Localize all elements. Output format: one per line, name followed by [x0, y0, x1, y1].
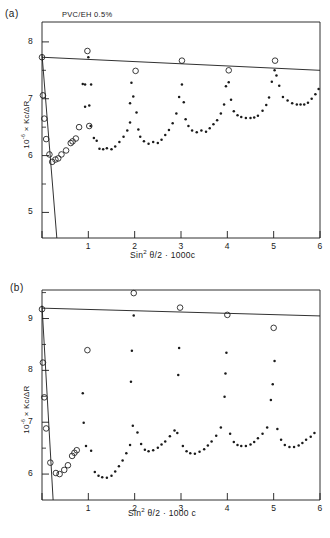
data-point-open-circle	[271, 325, 277, 331]
data-point-open-circle	[48, 460, 54, 466]
data-point-filled-dot	[227, 81, 230, 84]
data-point-filled-dot	[261, 432, 264, 435]
data-point-filled-dot	[224, 372, 227, 375]
data-point-filled-dot	[171, 122, 174, 125]
data-point-filled-dot	[175, 112, 178, 115]
data-point-filled-dot	[286, 99, 289, 102]
data-point-filled-dot	[223, 396, 226, 399]
data-point-filled-dot	[88, 104, 91, 107]
data-point-filled-dot	[210, 440, 213, 443]
data-point-filled-dot	[314, 93, 317, 96]
data-point-open-circle	[76, 124, 82, 130]
data-point-filled-dot	[130, 82, 133, 85]
data-point-open-circle	[57, 471, 63, 477]
data-point-filled-dot	[223, 103, 226, 106]
data-point-filled-dot	[183, 101, 186, 104]
panel-b-y-axis-label: 10-6 × Kc/ΔR	[22, 362, 31, 458]
data-point-filled-dot	[185, 450, 188, 453]
data-point-filled-dot	[310, 97, 313, 100]
data-point-open-circle	[177, 305, 183, 311]
data-point-filled-dot	[198, 451, 201, 454]
data-point-open-circle	[59, 152, 65, 158]
data-point-filled-dot	[98, 148, 101, 151]
data-point-open-circle	[131, 290, 137, 296]
data-point-filled-dot	[129, 102, 132, 105]
data-point-filled-dot	[187, 125, 190, 128]
data-point-filled-dot	[220, 426, 223, 429]
zero-angle-fit-line	[42, 306, 53, 500]
data-point-filled-dot	[101, 476, 104, 479]
data-point-filled-dot	[278, 84, 281, 87]
data-point-filled-dot	[273, 360, 276, 363]
data-point-filled-dot	[84, 105, 87, 108]
data-point-filled-dot	[90, 449, 93, 452]
data-point-open-circle	[43, 136, 49, 142]
data-point-filled-dot	[189, 452, 192, 455]
data-point-filled-dot	[118, 141, 121, 144]
data-point-filled-dot	[309, 435, 312, 438]
data-point-filled-dot	[140, 443, 143, 446]
data-point-filled-dot	[173, 429, 176, 432]
data-point-filled-dot	[178, 96, 181, 99]
x-tick-label: 3	[179, 241, 184, 251]
y-tick-label: 8	[28, 36, 33, 46]
data-point-filled-dot	[106, 476, 109, 479]
axes-frame	[42, 22, 320, 238]
data-point-filled-dot	[271, 80, 274, 83]
data-point-filled-dot	[160, 138, 163, 141]
data-point-filled-dot	[136, 431, 139, 434]
x-tick-label: 5	[271, 503, 276, 513]
data-point-filled-dot	[233, 110, 236, 113]
data-point-filled-dot	[220, 112, 223, 115]
data-point-filled-dot	[169, 435, 172, 438]
data-point-filled-dot	[129, 121, 132, 124]
data-point-filled-dot	[135, 111, 138, 114]
data-point-filled-dot	[249, 117, 252, 120]
data-point-filled-dot	[94, 471, 97, 474]
data-point-filled-dot	[257, 437, 260, 440]
data-point-filled-dot	[271, 383, 274, 386]
y-tick-label: 7	[28, 416, 33, 426]
data-point-filled-dot	[82, 421, 85, 424]
axes-frame	[42, 290, 320, 500]
data-point-filled-dot	[296, 103, 299, 106]
data-point-open-circle	[53, 470, 59, 476]
data-point-filled-dot	[261, 109, 264, 112]
y-tick-label: 9	[28, 313, 33, 323]
panel-a-x-axis-label: Sin2 θ/2 · 1000c	[130, 250, 195, 260]
data-point-open-circle	[85, 347, 91, 353]
x-tick-label: 6	[318, 503, 323, 513]
data-point-filled-dot	[130, 381, 133, 384]
data-point-filled-dot	[225, 351, 228, 354]
data-point-filled-dot	[160, 443, 163, 446]
data-point-filled-dot	[203, 448, 206, 451]
data-point-filled-dot	[297, 444, 300, 447]
data-point-filled-dot	[301, 442, 304, 445]
data-point-open-circle	[133, 68, 139, 74]
data-point-filled-dot	[265, 104, 268, 107]
data-point-filled-dot	[233, 441, 236, 444]
data-point-filled-dot	[85, 445, 88, 448]
chart-panel-b: (b) 10-6 × Kc/ΔR Sin2 θ/2 · 1000 c 67891…	[0, 270, 330, 538]
data-point-filled-dot	[110, 474, 113, 477]
data-point-filled-dot	[266, 426, 269, 429]
data-point-filled-dot	[245, 445, 248, 448]
data-point-filled-dot	[87, 56, 90, 59]
data-point-filled-dot	[181, 83, 184, 86]
data-point-filled-dot	[253, 441, 256, 444]
x-tick-label: 4	[225, 241, 230, 251]
x-tick-label: 3	[179, 503, 184, 513]
x-tick-label: 1	[86, 503, 91, 513]
data-point-filled-dot	[82, 392, 85, 395]
data-point-open-circle	[179, 58, 185, 64]
chart-panel-a: (a) PVC/EH 0.5% 10-6 × Kc/ΔR Sin2 θ/2 · …	[0, 0, 330, 268]
data-point-filled-dot	[293, 446, 296, 449]
data-point-filled-dot	[194, 453, 197, 456]
data-point-filled-dot	[229, 432, 232, 435]
data-point-filled-dot	[93, 137, 96, 140]
data-point-filled-dot	[257, 115, 260, 118]
x-tick-label: 2	[132, 241, 137, 251]
data-point-filled-dot	[122, 136, 125, 139]
data-point-filled-dot	[184, 118, 187, 121]
data-point-filled-dot	[275, 74, 278, 77]
